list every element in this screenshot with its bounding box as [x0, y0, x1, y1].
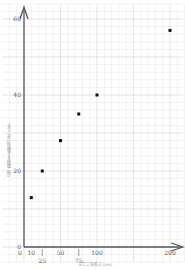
data-point	[59, 139, 62, 142]
data-point	[41, 170, 44, 173]
data-points	[30, 29, 172, 199]
x-tick-label: 0	[18, 249, 22, 256]
y-tick-label: 20	[13, 167, 21, 174]
data-point	[96, 94, 99, 97]
y-axis-label: ふりこが10往復する時間 (秒)	[6, 123, 11, 177]
x-tick-label: 25	[38, 257, 46, 264]
y-tick-label: 60	[13, 15, 21, 22]
data-point	[169, 29, 172, 32]
grid	[2, 4, 185, 262]
x-tick-label: 200	[164, 249, 176, 256]
scatter-chart: 0204060010255075100200 ふりこの長さ (cm) ふりこが1…	[0, 0, 185, 270]
x-axis-label: ふりこの長さ (cm)	[78, 261, 113, 267]
data-point	[30, 196, 33, 199]
tick-labels: 0204060010255075100200	[13, 15, 176, 264]
x-tick-label: 50	[57, 249, 65, 256]
x-tick-label: 100	[91, 249, 103, 256]
axes	[20, 7, 183, 251]
x-tick-label: 10	[27, 249, 35, 256]
y-tick-label: 40	[13, 91, 21, 98]
data-point	[77, 113, 80, 116]
